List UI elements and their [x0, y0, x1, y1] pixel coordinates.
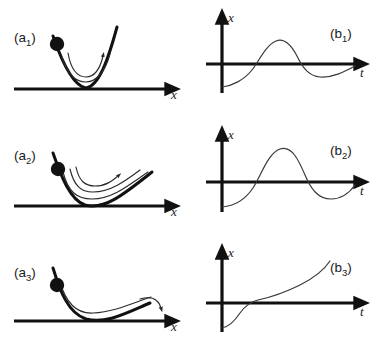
- a3-x-axis-label: x: [170, 319, 177, 334]
- b1-x-axis-label: x: [227, 10, 234, 25]
- panel-a1-label: (a1): [14, 30, 36, 48]
- b2-x-axis-label: x: [227, 127, 234, 142]
- panel-a3-label: (a3): [14, 265, 36, 283]
- b3-t-axis-label: t: [360, 304, 364, 319]
- panel-a2-label: (a2): [14, 148, 36, 166]
- a1-ball: [50, 37, 64, 51]
- b2-t-axis-label: t: [360, 183, 364, 198]
- panel-b1-label: (b1): [330, 26, 352, 44]
- b3-x-axis-label: x: [227, 245, 234, 260]
- damping-regimes-figure: (a1) x (b1) x t (a2) x (b2) x t: [0, 0, 380, 354]
- panel-b2-label: (b2): [330, 143, 352, 161]
- a2-x-axis-label: x: [170, 204, 177, 219]
- b1-t-axis-label: t: [360, 65, 364, 80]
- a1-x-axis-label: x: [170, 87, 177, 102]
- a3-ball: [50, 278, 64, 292]
- figure-background: [0, 0, 380, 354]
- a2-ball: [51, 162, 65, 176]
- panel-b3-label: (b3): [330, 260, 352, 278]
